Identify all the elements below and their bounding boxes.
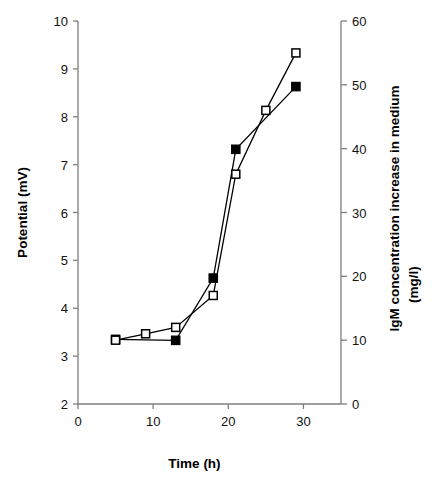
data-point-open-square: [142, 330, 150, 338]
y-axis-right-tick-label: 60: [352, 14, 366, 29]
chart-canvas: 234567891001020304050600102030Time (h)Po…: [0, 0, 437, 483]
y-axis-left-tick-label: 4: [61, 301, 68, 316]
y-axis-left-tick-label: 9: [61, 62, 68, 77]
y-axis-left-tick-label: 7: [61, 158, 68, 173]
y-axis-left-tick-label: 5: [61, 253, 68, 268]
series-potential: [111, 82, 300, 344]
y-axis-right-title-line2: (mg/l): [406, 266, 421, 303]
data-point-open-square: [262, 106, 270, 114]
y-axis-right-title-line1: IgM concentration increase in medium: [387, 85, 402, 331]
x-axis-tick-label: 10: [146, 414, 160, 429]
y-axis-right-tick-label: 10: [352, 333, 366, 348]
data-point-open-square: [172, 323, 180, 331]
y-axis-left-tick-label: 10: [54, 14, 68, 29]
axes-layer: [73, 21, 347, 409]
series-igm-concentration: [112, 49, 300, 344]
y-axis-left-tick-label: 6: [61, 206, 68, 221]
x-axis-title: Time (h): [168, 456, 220, 471]
x-axis-tick-label: 20: [221, 414, 235, 429]
data-point-open-square: [232, 170, 240, 178]
y-axis-left-tick-label: 3: [61, 349, 68, 364]
y-axis-left-tick-label: 2: [61, 397, 68, 412]
series-layer: [111, 49, 300, 345]
y-axis-left-title: Potential (mV): [15, 167, 30, 258]
data-point-open-square: [112, 336, 120, 344]
y-axis-right-tick-label: 30: [352, 206, 366, 221]
data-point-open-square: [209, 291, 217, 299]
x-axis-tick-label: 0: [74, 414, 81, 429]
series-line: [116, 53, 296, 340]
x-axis-tick-label: 30: [296, 414, 310, 429]
labels-layer: 234567891001020304050600102030Time (h)Po…: [15, 14, 421, 471]
data-point-filled-square: [292, 82, 300, 90]
data-point-open-square: [292, 49, 300, 57]
y-axis-right-tick-label: 0: [352, 397, 359, 412]
y-axis-right-tick-label: 20: [352, 269, 366, 284]
y-axis-right-tick-label: 50: [352, 78, 366, 93]
data-point-filled-square: [171, 336, 179, 344]
data-point-filled-square: [232, 145, 240, 153]
figure-container: 234567891001020304050600102030Time (h)Po…: [0, 0, 437, 483]
y-axis-left-tick-label: 8: [61, 110, 68, 125]
y-axis-right-tick-label: 40: [352, 142, 366, 157]
